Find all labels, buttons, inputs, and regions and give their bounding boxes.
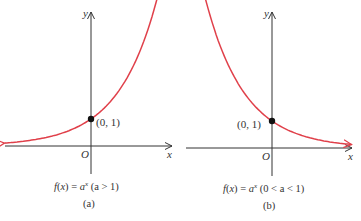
exponential-figure: (0, 1) y x O f(x) = ax (a > 1) (a) (0, 1… bbox=[0, 0, 361, 221]
point-label: (0, 1) bbox=[237, 118, 261, 131]
y-axis-label: y bbox=[82, 7, 88, 19]
point-label: (0, 1) bbox=[96, 116, 120, 129]
origin-label: O bbox=[81, 148, 89, 160]
exponential-curve-growth bbox=[5, 0, 171, 143]
panel-sublabel: (b) bbox=[263, 200, 276, 212]
function-caption: f(x) = ax (0 < a < 1) bbox=[223, 182, 305, 195]
x-axis-label: x bbox=[347, 150, 353, 162]
y-intercept-point bbox=[269, 118, 275, 124]
y-axis-label: y bbox=[263, 7, 269, 19]
x-axis-label: x bbox=[166, 148, 172, 160]
panel-sublabel: (a) bbox=[83, 198, 95, 210]
panel-a: (0, 1) y x O f(x) = ax (a > 1) (a) bbox=[5, 0, 172, 210]
panel-b: (0, 1) y x O f(x) = ax (0 < a < 1) (b) bbox=[186, 0, 353, 212]
y-intercept-point bbox=[88, 116, 94, 122]
origin-label: O bbox=[262, 150, 270, 162]
function-caption: f(x) = ax (a > 1) bbox=[54, 180, 119, 193]
